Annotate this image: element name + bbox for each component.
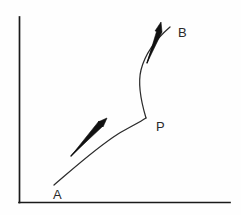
diagram-svg: [0, 0, 241, 215]
figure-canvas: A B P: [0, 0, 241, 215]
tangent-arrow-upper-taper: [147, 30, 162, 63]
point-label-a: A: [53, 188, 62, 201]
point-label-p: P: [156, 120, 165, 133]
tangent-arrow-lower-taper: [71, 121, 103, 156]
point-label-b: B: [178, 26, 187, 39]
